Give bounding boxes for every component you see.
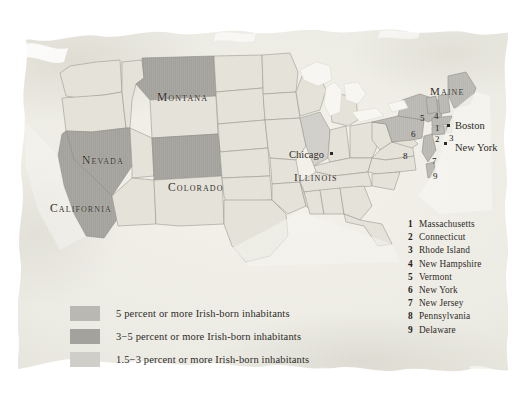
legend-swatch-mid bbox=[70, 329, 100, 344]
map-number-5: 5 bbox=[420, 114, 425, 123]
shading-legend: 5 percent or more Irish-born inhabitants… bbox=[70, 303, 309, 372]
legend-label-high: 5 percent or more Irish-born inhabitants bbox=[116, 308, 290, 319]
key-state-name: Rhode Island bbox=[419, 244, 470, 257]
map-number-9: 9 bbox=[433, 172, 438, 181]
key-row: 3 Rhode Island bbox=[408, 244, 523, 257]
state-label-montana: Montana bbox=[157, 92, 208, 104]
key-number: 1 bbox=[408, 218, 419, 231]
city-label-boston: Boston bbox=[455, 121, 485, 132]
key-row: 4 New Hampshire bbox=[408, 258, 523, 271]
key-state-name: Connecticut bbox=[419, 231, 466, 244]
key-number: 3 bbox=[408, 244, 419, 257]
key-state-name: New Hampshire bbox=[419, 258, 482, 271]
state-label-illinois: Illinois bbox=[294, 172, 338, 183]
key-row: 9 Delaware bbox=[408, 324, 523, 337]
key-number: 2 bbox=[408, 231, 419, 244]
map-number-8: 8 bbox=[403, 152, 408, 161]
map-number-6: 6 bbox=[411, 130, 416, 139]
key-state-name: Delaware bbox=[419, 324, 456, 337]
key-number: 9 bbox=[408, 324, 419, 337]
map-number-1: 1 bbox=[435, 124, 440, 133]
key-state-name: Vermont bbox=[419, 271, 452, 284]
map-page: Montana Nevada Colorado California Illin… bbox=[0, 0, 526, 404]
key-number: 7 bbox=[408, 297, 419, 310]
new-york-dot bbox=[444, 142, 447, 145]
legend-row: 1.5−3 percent or more Irish-born inhabit… bbox=[70, 349, 309, 369]
key-number: 4 bbox=[408, 258, 419, 271]
city-label-new-york: New York bbox=[455, 143, 498, 154]
key-row: 6 New York bbox=[408, 284, 523, 297]
key-row: 1 Massachusetts bbox=[408, 218, 523, 231]
key-state-name: New York bbox=[419, 284, 458, 297]
key-number: 8 bbox=[408, 310, 419, 323]
map-number-2: 2 bbox=[435, 135, 440, 144]
state-label-colorado: Colorado bbox=[168, 182, 224, 194]
legend-swatch-low bbox=[70, 352, 100, 367]
key-state-name: New Jersey bbox=[419, 297, 464, 310]
map-number-3: 3 bbox=[449, 134, 454, 143]
legend-row: 5 percent or more Irish-born inhabitants bbox=[70, 303, 309, 323]
numbered-state-key: 1 Massachusetts 2 Connecticut 3 Rhode Is… bbox=[408, 218, 523, 337]
map-number-4: 4 bbox=[434, 112, 439, 121]
city-label-chicago: Chicago bbox=[289, 150, 324, 161]
legend-swatch-high bbox=[70, 306, 100, 321]
legend-row: 3−5 percent or more Irish-born inhabitan… bbox=[70, 326, 309, 346]
key-state-name: Massachusetts bbox=[419, 218, 475, 231]
state-label-california: California bbox=[50, 203, 112, 215]
key-row: 2 Connecticut bbox=[408, 231, 523, 244]
boston-dot bbox=[447, 124, 450, 127]
chicago-dot bbox=[330, 152, 333, 155]
legend-label-mid: 3−5 percent or more Irish-born inhabitan… bbox=[116, 331, 301, 342]
map-number-7: 7 bbox=[432, 157, 437, 166]
key-number: 5 bbox=[408, 271, 419, 284]
key-row: 7 New Jersey bbox=[408, 297, 523, 310]
key-number: 6 bbox=[408, 284, 419, 297]
state-label-maine: Maine bbox=[430, 86, 464, 97]
key-state-name: Pennsylvania bbox=[419, 310, 470, 323]
state-label-nevada: Nevada bbox=[82, 155, 124, 167]
key-row: 8 Pennsylvania bbox=[408, 310, 523, 323]
legend-label-low: 1.5−3 percent or more Irish-born inhabit… bbox=[116, 354, 309, 365]
key-row: 5 Vermont bbox=[408, 271, 523, 284]
